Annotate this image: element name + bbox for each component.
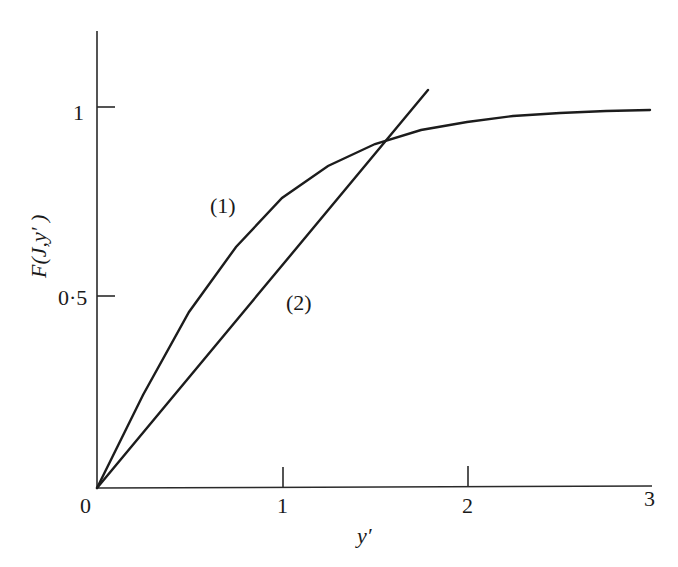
y-tick-label-1: 1 xyxy=(73,100,84,125)
curve-2-label: (2) xyxy=(286,290,312,315)
x-tick-label-1: 1 xyxy=(277,493,288,518)
curve-1 xyxy=(97,110,650,488)
x-axis xyxy=(97,486,652,488)
chart: 0 1 2 3 1 0·5 y′ F(J,y′ ) (1) (2) xyxy=(0,0,678,567)
x-tick-label-2: 2 xyxy=(462,493,473,518)
y-tick-label-0-5: 0·5 xyxy=(58,285,87,310)
y-axis-label: F(J,y′ ) xyxy=(26,215,51,279)
origin-label: 0 xyxy=(80,493,91,518)
x-axis-label: y′ xyxy=(355,523,373,548)
curve-1-label: (1) xyxy=(210,193,236,218)
x-tick-label-3: 3 xyxy=(644,486,655,511)
curve-2 xyxy=(97,90,428,488)
